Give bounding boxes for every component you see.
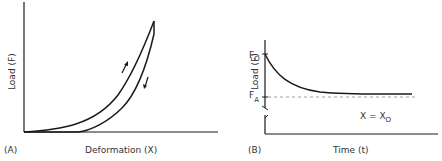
figure: (A) Deformation (X) Load (F) FO FA X = X… — [0, 0, 442, 161]
fa-label: FA — [249, 90, 259, 104]
panel-a-ylabel: Load (F) — [7, 53, 17, 90]
arrow-down-icon — [143, 77, 148, 89]
panel-b-tag: (B) — [248, 145, 261, 155]
loading-curve — [24, 21, 154, 132]
panel-a-tag: (A) — [4, 145, 17, 155]
condition-label: X = XO — [360, 111, 392, 124]
panel-b-ylabel: Load (F) — [250, 53, 260, 90]
unloading-curve — [24, 21, 154, 132]
relaxation-curve — [265, 54, 412, 94]
panel-a: (A) Deformation (X) Load (F) — [4, 2, 218, 155]
panel-b-xlabel: Time (t) — [332, 145, 368, 155]
panel-a-xlabel: Deformation (X) — [85, 145, 157, 155]
arrow-up-icon — [122, 61, 128, 73]
panel-b: FO FA X = XO (B) Time (t) Load (F) — [248, 40, 438, 155]
